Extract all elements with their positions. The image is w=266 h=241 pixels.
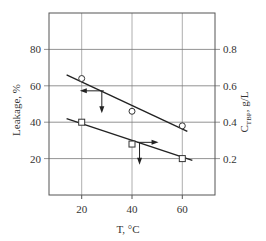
data-point-square [79,119,85,125]
y-tick-label-left: 80 [30,43,42,55]
y-tick-label-right: 0.4 [223,116,237,128]
arrow-left-icon [80,88,87,93]
y-tick-label-left: 60 [30,80,42,92]
data-point-circle [79,76,85,82]
chart: 204060204060800.20.40.60.8 T, °C Leakage… [0,0,266,241]
y-axis-label-right: CTBP, g/L [238,91,253,132]
data-point-square [129,141,135,147]
y-axis-label-right-unit: , g/L [238,91,250,112]
x-tick-label: 40 [127,203,139,215]
data-point-circle [179,123,185,129]
y-axis-label-right-sub: TBP [245,112,253,125]
axis-ticks: 204060204060800.20.40.60.8 [30,43,237,215]
y-axis-label-right-main: C [238,125,250,132]
y-axis-label-left: Leakage, % [10,84,22,136]
x-axis-label: T, °C [116,223,139,235]
arrow-right-icon [152,140,159,145]
arrow-down-icon [137,158,142,165]
data-point-circle [129,108,135,114]
grid-lines [44,13,220,195]
y-tick-label-left: 20 [30,153,42,165]
arrow-down-icon [99,106,104,113]
y-tick-label-right: 0.6 [223,80,237,92]
x-tick-label: 60 [177,203,189,215]
x-tick-label: 20 [76,203,88,215]
data-point-square [179,156,185,162]
y-tick-label-left: 40 [30,116,42,128]
data-series [67,75,193,165]
y-tick-label-right: 0.2 [223,153,237,165]
y-tick-label-right: 0.8 [223,43,237,55]
